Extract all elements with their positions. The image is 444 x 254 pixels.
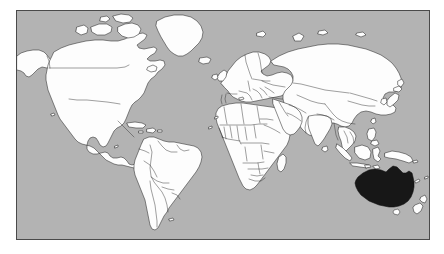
island-jamaica <box>139 131 143 133</box>
map-frame <box>16 10 430 240</box>
island-puerto-rico <box>158 130 162 132</box>
world-map-figure <box>0 0 444 254</box>
world-map-svg <box>17 11 429 239</box>
country-iceland <box>199 57 211 64</box>
island-victoria <box>91 24 112 35</box>
